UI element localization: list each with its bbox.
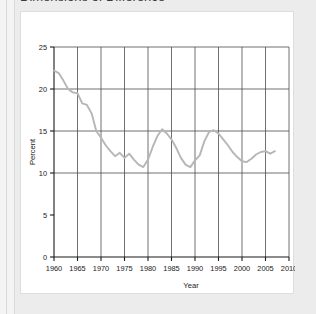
x-tick-labels: 1960196519701975198019851990199520002005… bbox=[46, 264, 295, 273]
x-tick-label: 1995 bbox=[210, 264, 226, 273]
x-tick-label: 1980 bbox=[140, 264, 156, 273]
x-tick-label: 2010 bbox=[281, 264, 295, 273]
scrollbar-rail[interactable] bbox=[6, 0, 7, 314]
y-tick-labels: 0510152025 bbox=[39, 43, 47, 262]
y-tick-label: 15 bbox=[39, 127, 47, 136]
y-axis-title: Percent bbox=[28, 138, 37, 165]
x-tick-label: 1970 bbox=[93, 264, 109, 273]
chart-svg: 1960196519701975198019851990199520002005… bbox=[21, 12, 295, 295]
line-chart: 1960196519701975198019851990199520002005… bbox=[21, 12, 295, 295]
x-tick-label: 1985 bbox=[163, 264, 179, 273]
y-tick-label: 20 bbox=[39, 85, 47, 94]
y-tick-label: 10 bbox=[39, 169, 47, 178]
y-tick-label: 0 bbox=[43, 253, 47, 262]
x-axis-title: Year bbox=[183, 281, 199, 290]
page-left-edge bbox=[0, 0, 15, 314]
tick-marks bbox=[50, 47, 289, 261]
x-tick-label: 1965 bbox=[69, 264, 85, 273]
x-tick-label: 2000 bbox=[234, 264, 250, 273]
y-tick-label: 25 bbox=[39, 43, 47, 52]
x-tick-label: 1990 bbox=[187, 264, 203, 273]
figure-card: 1960196519701975198019851990199520002005… bbox=[20, 11, 294, 294]
grid-lines bbox=[54, 47, 289, 257]
page-title: Dimensions of Difference bbox=[20, 0, 300, 5]
x-tick-label: 1975 bbox=[116, 264, 132, 273]
x-tick-label: 1960 bbox=[46, 264, 62, 273]
x-tick-label: 2005 bbox=[257, 264, 273, 273]
y-tick-label: 5 bbox=[43, 211, 47, 220]
